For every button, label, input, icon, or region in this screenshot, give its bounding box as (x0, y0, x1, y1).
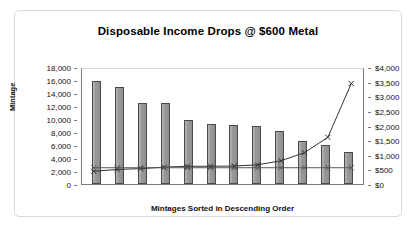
y-axis-left-ticks: 02,0004,0006,0008,00010,00012,00014,0001… (15, 68, 77, 185)
y-axis-right-tick-label: $500 (375, 166, 393, 175)
y-axis-right-tick-label: $2,500 (375, 107, 399, 116)
y-axis-left-tick-mark (74, 133, 77, 134)
y-axis-left-tick-mark (74, 81, 77, 82)
y-axis-left-tick-label: 4,000 (51, 155, 71, 164)
y-axis-left-tick-mark (74, 107, 77, 108)
y-axis-left-tick-mark (74, 120, 77, 121)
y-axis-right-tick-mark (368, 185, 371, 186)
plot-area (81, 68, 364, 185)
y-axis-left-tick-mark (74, 172, 77, 173)
x-axis-label: Mintages Sorted in Descending Order (81, 204, 364, 213)
y-axis-right-tick-label: $4,000 (375, 64, 399, 73)
y-axis-left-tick-mark (74, 185, 77, 186)
y-axis-right-tick-mark (368, 97, 371, 98)
y-axis-right-tick-mark (368, 141, 371, 142)
y-axis-left-tick-label: 0 (67, 181, 71, 190)
line-series-layer (82, 69, 363, 185)
y-axis-left-tick-label: 10,000 (47, 116, 71, 125)
y-axis-right-tick-label: $1,000 (375, 151, 399, 160)
y-axis-right-tick-mark (368, 127, 371, 128)
y-axis-left-tick-mark (74, 159, 77, 160)
y-axis-left-tick-label: 16,000 (47, 77, 71, 86)
chart-container: Disposable Income Drops @ $600 Metal Min… (14, 10, 402, 217)
y-axis-right-tick-mark (368, 68, 371, 69)
y-axis-right-tick-label: $1,500 (375, 137, 399, 146)
y-axis-left-tick-mark (74, 68, 77, 69)
y-axis-right-ticks: $0$500$1,000$1,500$2,000$2,500$3,000$3,5… (368, 68, 412, 185)
y-axis-right-tick-mark (368, 170, 371, 171)
line-marker-x (349, 81, 354, 86)
y-axis-right-tick-mark (368, 83, 371, 84)
y-axis-left-tick-label: 2,000 (51, 168, 71, 177)
y-axis-left-tick-label: 14,000 (47, 90, 71, 99)
line-marker-x (302, 150, 307, 155)
y-axis-right-tick-label: $3,000 (375, 93, 399, 102)
y-axis-left-tick-label: 12,000 (47, 103, 71, 112)
y-axis-left-tick-label: 18,000 (47, 64, 71, 73)
chart-title: Disposable Income Drops @ $600 Metal (15, 25, 401, 37)
y-axis-right-tick-mark (368, 112, 371, 113)
y-axis-right-tick-mark (368, 156, 371, 157)
line-path (94, 84, 352, 172)
y-axis-right-tick-label: $2,000 (375, 122, 399, 131)
y-axis-right-tick-label: $3,500 (375, 78, 399, 87)
y-axis-left-tick-mark (74, 94, 77, 95)
y-axis-right-tick-label: $0 (375, 181, 384, 190)
y-axis-left-tick-label: 6,000 (51, 142, 71, 151)
line-marker-x (325, 135, 330, 140)
y-axis-left-tick-mark (74, 146, 77, 147)
y-axis-left-tick-label: 8,000 (51, 129, 71, 138)
